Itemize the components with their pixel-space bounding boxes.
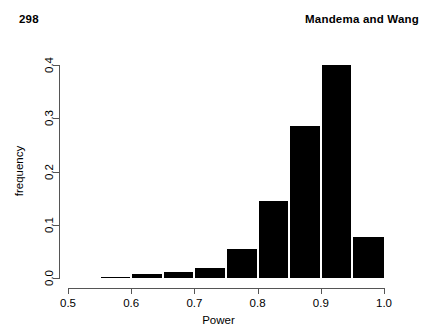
histogram-bar	[100, 277, 132, 278]
x-axis-tick	[194, 288, 195, 294]
histogram-figure: Power frequency 0.50.60.70.80.91.00.00.1…	[0, 0, 437, 334]
y-axis-tick-label: 0.0	[43, 270, 55, 286]
x-axis-tick	[321, 288, 322, 294]
y-axis-line	[59, 65, 60, 279]
x-axis-tick-label: 0.5	[60, 297, 76, 309]
histogram-bar	[131, 274, 163, 278]
y-axis-title: frequency	[13, 146, 25, 197]
histogram-bar	[194, 268, 226, 278]
x-axis-tick-label: 0.7	[186, 297, 202, 309]
histogram-bar	[226, 249, 258, 278]
y-axis-tick-label: 0.2	[43, 164, 55, 180]
x-axis-title: Power	[0, 314, 437, 326]
x-axis-tick-label: 0.9	[313, 297, 329, 309]
plot-area	[68, 65, 384, 278]
x-axis-tick	[131, 288, 132, 294]
histogram-bar	[163, 272, 195, 278]
x-axis-tick-label: 1.0	[376, 297, 392, 309]
x-axis-line	[68, 288, 385, 289]
y-axis-tick-label: 0.3	[43, 110, 55, 126]
histogram-bar	[352, 237, 384, 278]
y-axis-tick-label: 0.4	[43, 57, 55, 73]
x-axis-tick	[68, 288, 69, 294]
histogram-bar	[289, 126, 321, 278]
y-axis-tick-label: 0.1	[43, 217, 55, 233]
x-axis-tick-label: 0.8	[250, 297, 266, 309]
histogram-bar	[321, 65, 353, 278]
x-axis-tick	[384, 288, 385, 294]
x-axis-tick	[258, 288, 259, 294]
x-axis-tick-label: 0.6	[123, 297, 139, 309]
histogram-bar	[258, 201, 290, 278]
